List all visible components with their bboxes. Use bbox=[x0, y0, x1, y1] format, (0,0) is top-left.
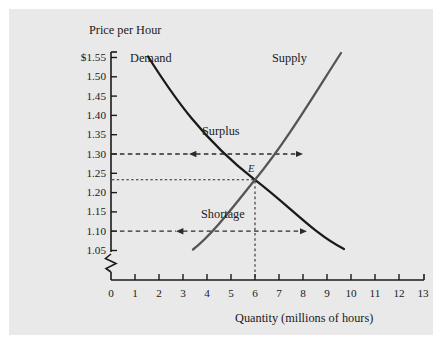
x-tick-label-2: 2 bbox=[149, 288, 169, 299]
x-tick-label-13: 13 bbox=[413, 288, 433, 299]
y-axis-title: Price per Hour bbox=[89, 24, 161, 36]
y-tick-label-1-10: 1.10 bbox=[58, 226, 106, 237]
x-tick-label-4: 4 bbox=[197, 288, 217, 299]
y-tick-label-1-40: 1.40 bbox=[58, 110, 106, 121]
x-tick-label-7: 7 bbox=[269, 288, 289, 299]
supply-curve-label: Supply bbox=[272, 52, 307, 64]
figure-container: Price per Hour $1.55 1.50 1.45 1.40 1.35… bbox=[0, 0, 441, 341]
x-tick-label-1: 1 bbox=[125, 288, 145, 299]
x-tick-label-0: 0 bbox=[101, 288, 121, 299]
x-tick-label-11: 11 bbox=[365, 288, 385, 299]
y-tick-label-1-50: 1.50 bbox=[58, 71, 106, 82]
y-tick-label-1-15: 1.15 bbox=[58, 206, 106, 217]
x-tick-label-12: 12 bbox=[389, 288, 409, 299]
y-tick-label-1-05: 1.05 bbox=[58, 245, 106, 256]
y-tick-label-1-25: 1.25 bbox=[58, 168, 106, 179]
y-tick-label-1-35: 1.35 bbox=[58, 129, 106, 140]
x-tick-label-6: 6 bbox=[245, 288, 265, 299]
equilibrium-point-label: E bbox=[248, 164, 254, 175]
x-tick-label-8: 8 bbox=[293, 288, 313, 299]
y-tick-label-1-55: $1.55 bbox=[58, 52, 106, 63]
x-tick-label-3: 3 bbox=[173, 288, 193, 299]
demand-curve-label: Demand bbox=[130, 52, 172, 64]
shortage-label: Shortage bbox=[201, 208, 245, 220]
y-axis-break-icon bbox=[106, 254, 117, 272]
demand-curve bbox=[148, 57, 344, 250]
x-axis bbox=[111, 274, 424, 280]
x-tick-label-9: 9 bbox=[317, 288, 337, 299]
x-tick-label-5: 5 bbox=[221, 288, 241, 299]
y-tick-label-1-45: 1.45 bbox=[58, 91, 106, 102]
x-tick-label-10: 10 bbox=[341, 288, 361, 299]
y-tick-label-1-20: 1.20 bbox=[58, 187, 106, 198]
y-axis bbox=[106, 52, 118, 280]
x-axis-title: Quantity (millions of hours) bbox=[235, 312, 373, 324]
y-tick-label-1-30: 1.30 bbox=[58, 149, 106, 160]
surplus-label: Surplus bbox=[202, 125, 240, 137]
